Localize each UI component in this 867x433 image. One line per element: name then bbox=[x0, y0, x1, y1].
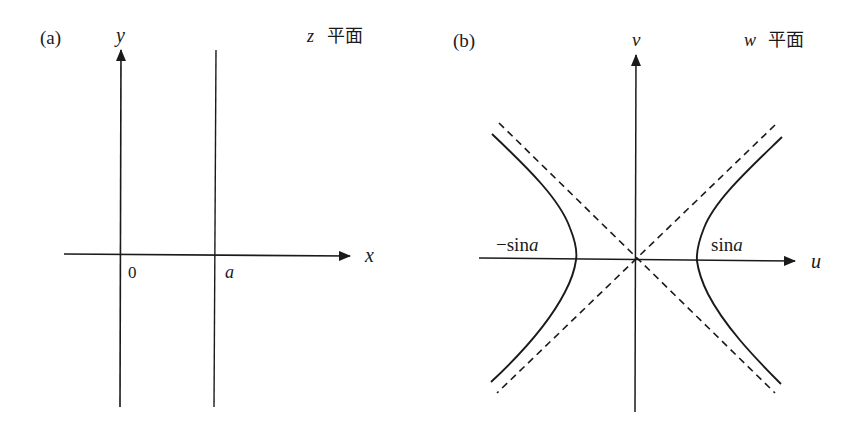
panel-b: (b) v w 平面 u −sina sina bbox=[453, 29, 821, 412]
left-vertex-label: −sina bbox=[496, 234, 538, 255]
u-axis-label: u bbox=[811, 250, 821, 272]
v-axis-label: v bbox=[632, 29, 641, 50]
v-axis bbox=[635, 55, 636, 412]
origin-label: 0 bbox=[128, 263, 137, 282]
z-plane-word: 平面 bbox=[327, 26, 363, 46]
x-axis bbox=[64, 254, 350, 256]
right-vertex-label: sina bbox=[711, 234, 743, 255]
panel-a: (a) y z 平面 x 0 a bbox=[40, 24, 374, 407]
w-plane-var: w bbox=[744, 30, 756, 50]
x-axis-label: x bbox=[364, 244, 374, 266]
panel-b-tag: (b) bbox=[453, 30, 475, 52]
y-axis bbox=[120, 50, 121, 407]
figure-canvas: (a) y z 平面 x 0 a (b) v w 平面 u −sina sina bbox=[0, 0, 867, 433]
panel-a-tag: (a) bbox=[40, 27, 61, 49]
y-axis-label: y bbox=[114, 24, 125, 47]
a-label: a bbox=[225, 262, 234, 282]
w-plane-word: 平面 bbox=[768, 30, 804, 50]
z-plane-var: z bbox=[306, 26, 314, 46]
line-x-equals-a bbox=[214, 50, 216, 407]
